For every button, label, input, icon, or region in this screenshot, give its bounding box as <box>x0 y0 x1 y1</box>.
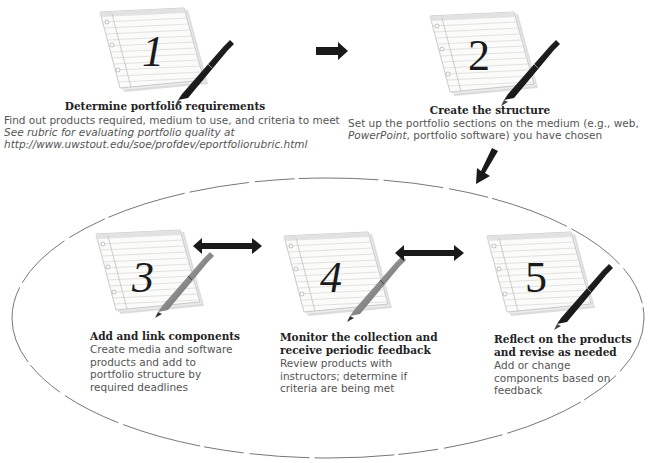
step-3-body-line: required deadlines <box>90 381 240 394</box>
step-3-body-line: Create media and software <box>90 343 240 356</box>
step-5-title-line: Reflect on the products <box>494 333 632 346</box>
step-4-number: 4 <box>320 253 342 302</box>
arrow-down-left-icon <box>470 148 500 188</box>
step-4-body-line: Review products with <box>280 357 437 370</box>
step-5-text: Reflect on the products and revise as ne… <box>494 333 632 397</box>
step-1-number: 1 <box>142 27 164 76</box>
step-1-title: Determine portfolio requirements <box>60 100 270 113</box>
step-4-title-line: receive periodic feedback <box>280 344 437 357</box>
double-arrow-4-5-icon <box>394 243 466 263</box>
step-2-body-rest: , portfolio software) you have chosen <box>407 129 603 141</box>
step-5-body-line: Add or change <box>494 359 632 372</box>
step-3-text: Add and link components Create media and… <box>90 330 240 393</box>
step-5-number: 5 <box>525 253 547 302</box>
step-5-notepad-icon: 5 <box>487 234 627 334</box>
step-2-number: 2 <box>468 31 490 80</box>
step-3-title: Add and link components <box>90 330 240 343</box>
step-2-body-line1: Set up the portfolio sections on the med… <box>348 117 639 130</box>
step-4-text: Monitor the collection and receive perio… <box>280 331 437 395</box>
step-3-body-line: products and add to <box>90 356 240 369</box>
step-1-notepad-icon: 1 <box>100 10 240 110</box>
step-2-body-line2: PowerPoint, portfolio software) you have… <box>348 129 602 142</box>
step-5-body-line: feedback <box>494 384 632 397</box>
step-2-body-italic: PowerPoint <box>348 129 407 141</box>
step-4-title-line: Monitor the collection and <box>280 331 437 344</box>
arrow-right-icon <box>314 40 354 62</box>
step-2-notepad-icon: 2 <box>430 14 570 114</box>
step-1-note: See rubric for evaluating portfolio qual… <box>4 126 235 139</box>
double-arrow-3-4-icon <box>192 236 264 256</box>
step-3-body-line: portfolio structure by <box>90 368 240 381</box>
step-4-body-line: criteria are being met <box>280 382 437 395</box>
step-4-body-line: instructors; determine if <box>280 370 437 383</box>
step-1-body: Find out products required, medium to us… <box>4 114 324 127</box>
step-1-link[interactable]: http://www.uwstout.edu/soe/profdev/eport… <box>4 138 307 151</box>
step-3-number: 3 <box>131 253 154 302</box>
step-2-title: Create the structure <box>400 104 580 117</box>
step-5-body-line: components based on <box>494 372 632 385</box>
step-5-title-line: and revise as needed <box>494 346 632 359</box>
